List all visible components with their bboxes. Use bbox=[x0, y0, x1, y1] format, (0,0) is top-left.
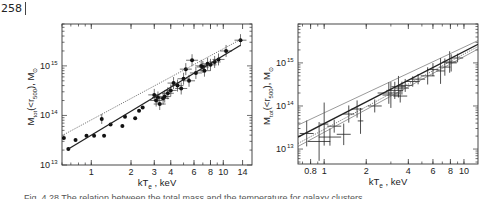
svg-text:13: 13 bbox=[287, 143, 294, 149]
plot-area bbox=[62, 34, 247, 151]
y-axis-label: Mtot(<r500), M⊙ bbox=[25, 68, 38, 126]
svg-text:15: 15 bbox=[51, 60, 58, 66]
figure: 1234681014101310141015kTe , keVMtot(<r50… bbox=[0, 0, 489, 199]
data-point bbox=[202, 69, 206, 73]
plot-frame bbox=[298, 24, 478, 164]
x-tick-label: 2 bbox=[129, 167, 134, 177]
data-point bbox=[62, 136, 66, 140]
data-point bbox=[187, 79, 191, 83]
x-tick-label: 6 bbox=[430, 166, 435, 176]
data-point bbox=[163, 95, 167, 99]
data-point bbox=[238, 38, 242, 42]
data-point bbox=[133, 116, 137, 120]
data-point bbox=[102, 134, 106, 138]
x-tick-label: 8 bbox=[208, 167, 213, 177]
data-point bbox=[179, 86, 183, 90]
fit-line bbox=[298, 49, 478, 146]
x-tick-label: 6 bbox=[191, 167, 196, 177]
y-tick-label: 10 bbox=[276, 101, 286, 111]
x-tick-label: 10 bbox=[218, 167, 228, 177]
x-tick-label: 3 bbox=[152, 167, 157, 177]
fit-line bbox=[64, 40, 241, 135]
y-axis-label: Mtot(<r500), M⊙ bbox=[261, 67, 274, 125]
plot-frame bbox=[62, 24, 252, 165]
x-tick-label: 0.8 bbox=[304, 166, 317, 176]
chart-left: 1234681014101310141015kTe , keVMtot(<r50… bbox=[25, 24, 252, 190]
plot-area bbox=[298, 41, 478, 161]
figure-caption: Fig. 4.28 The relation between the total… bbox=[24, 193, 484, 199]
data-point bbox=[120, 124, 124, 128]
x-tick-label: 14 bbox=[238, 167, 248, 177]
y-tick-label: 10 bbox=[276, 144, 286, 154]
svg-text:15: 15 bbox=[287, 57, 294, 63]
svg-text:13: 13 bbox=[51, 159, 58, 165]
data-point bbox=[137, 109, 141, 113]
data-point bbox=[224, 49, 228, 53]
x-tick-label: 2 bbox=[364, 166, 369, 176]
data-point bbox=[141, 105, 145, 109]
x-tick-label: 8 bbox=[448, 166, 453, 176]
y-tick-label: 10 bbox=[40, 110, 50, 120]
data-point bbox=[169, 88, 173, 92]
x-axis-label: kTe , keV bbox=[138, 177, 177, 190]
x-tick-label: 1 bbox=[322, 166, 327, 176]
y-tick-label: 10 bbox=[276, 58, 286, 68]
x-tick-label: 1 bbox=[89, 167, 94, 177]
x-tick-label: 4 bbox=[406, 166, 411, 176]
svg-text:14: 14 bbox=[287, 100, 294, 106]
x-axis-label: kTe , keV bbox=[369, 176, 408, 189]
data-point bbox=[166, 91, 170, 95]
data-point bbox=[190, 58, 194, 62]
fit-line bbox=[298, 44, 478, 137]
data-point bbox=[184, 67, 188, 71]
data-point bbox=[100, 117, 104, 121]
x-tick-label: 10 bbox=[459, 166, 469, 176]
x-tick-label: 4 bbox=[168, 167, 173, 177]
chart-right: 0.81246810101310141015kTe , keVMtot(<r50… bbox=[261, 24, 478, 189]
data-point bbox=[158, 102, 162, 106]
y-tick-label: 10 bbox=[40, 61, 50, 71]
fit-line bbox=[68, 45, 240, 149]
svg-text:14: 14 bbox=[51, 109, 58, 115]
fit-line bbox=[298, 41, 478, 126]
data-point bbox=[74, 138, 78, 142]
y-tick-label: 10 bbox=[40, 160, 50, 170]
